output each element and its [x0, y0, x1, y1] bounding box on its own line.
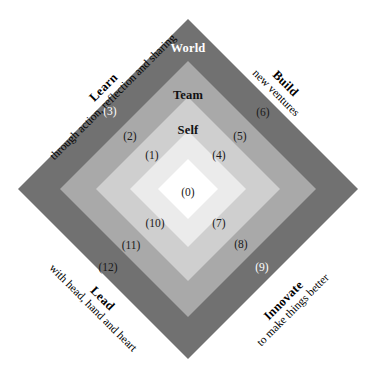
- marker-4: (4): [212, 150, 225, 162]
- marker-8: (8): [234, 239, 247, 251]
- marker-12: (12): [98, 262, 117, 274]
- marker-7: (7): [212, 218, 225, 230]
- marker-11: (11): [122, 240, 141, 252]
- ring-label-world: World: [170, 42, 205, 55]
- marker-0: (0): [181, 187, 194, 199]
- ring-label-team: Team: [173, 89, 203, 102]
- marker-10: (10): [145, 218, 164, 230]
- marker-5: (5): [233, 131, 246, 143]
- marker-9: (9): [255, 262, 268, 274]
- ring-label-self: Self: [178, 124, 199, 137]
- marker-2: (2): [123, 131, 136, 143]
- marker-1: (1): [145, 150, 158, 162]
- diagram-canvas: World Team Self (0) (1) (2) (3) (4) (5) …: [0, 0, 375, 373]
- marker-6: (6): [256, 107, 269, 119]
